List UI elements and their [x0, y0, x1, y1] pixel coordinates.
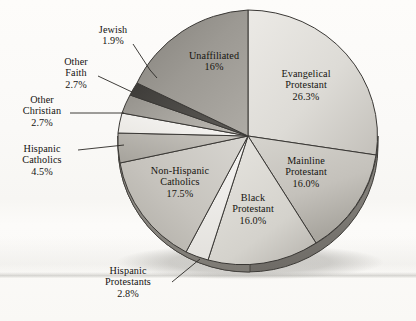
slice-label-line1: Jewish: [78, 24, 148, 35]
slice-label-line2: Protestant: [208, 203, 298, 214]
slice-label-other-faith: Other Faith 2.7%: [44, 56, 108, 90]
slice-label-line1: Other: [44, 56, 108, 67]
slice-value: 16.0%: [208, 215, 298, 226]
slice-label-evangelical-protestant: Evangelical Protestant 26.3%: [252, 68, 360, 102]
slice-value: 16%: [166, 61, 262, 72]
slice-label-line1: Non-Hispanic: [128, 165, 232, 176]
slice-label-line1: Unaffiliated: [166, 50, 262, 61]
slice-label-unaffiliated: Unaffiliated 16%: [166, 50, 262, 73]
slice-label-jewish: Jewish 1.9%: [78, 24, 148, 47]
slice-label-line1: Other: [6, 94, 78, 105]
slice-value: 4.5%: [4, 166, 80, 177]
slice-label-line2: Protestant: [258, 166, 354, 177]
leader-line-hispanic-catholics: [78, 145, 124, 150]
slice-label-line1: Hispanic: [84, 265, 172, 276]
slice-value: 2.7%: [6, 117, 78, 128]
slice-value: 17.5%: [128, 188, 232, 199]
slice-label-non-hispanic-catholics: Non-Hispanic Catholics 17.5%: [128, 165, 232, 199]
pie-chart-figure: Evangelical Protestant 26.3% Mainline Pr…: [0, 0, 416, 321]
slice-label-line2: Protestant: [252, 79, 360, 90]
slice-label-line2: Christian: [6, 105, 78, 116]
slice-label-hispanic-catholics: Hispanic Catholics 4.5%: [4, 143, 80, 177]
slice-label-line1: Hispanic: [4, 143, 80, 154]
slice-value: 26.3%: [252, 91, 360, 102]
slice-label-line2: Faith: [44, 67, 108, 78]
slice-value: 1.9%: [78, 35, 148, 46]
slice-label-other-christian: Other Christian 2.7%: [6, 94, 78, 128]
slice-label-mainline-protestant: Mainline Protestant 16.0%: [258, 155, 354, 189]
slice-label-hispanic-protestants: Hispanic Protestants 2.8%: [84, 265, 172, 299]
slice-label-line1: Evangelical: [252, 68, 360, 79]
pie-slices: [118, 10, 378, 265]
slice-label-line1: Mainline: [258, 155, 354, 166]
slice-value: 2.7%: [44, 79, 108, 90]
slice-value: 16.0%: [258, 178, 354, 189]
slice-label-line2: Catholics: [128, 176, 232, 187]
slice-value: 2.8%: [84, 288, 172, 299]
slice-label-line2: Catholics: [4, 154, 80, 165]
slice-label-line2: Protestants: [84, 276, 172, 287]
